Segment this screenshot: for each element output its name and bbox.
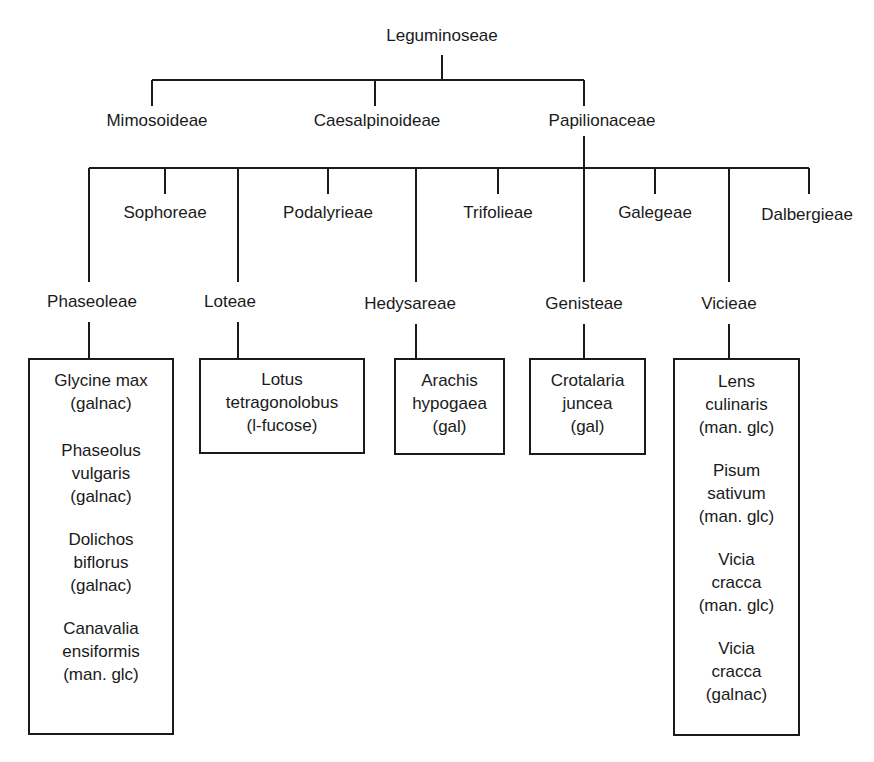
node-dalbergieae: Dalbergieae — [761, 205, 853, 225]
node-mimosoideae: Mimosoideae — [106, 111, 207, 131]
species-epithet: culinaris — [699, 393, 775, 416]
species-arachis-hypogaea: Arachis hypogaea (gal) — [412, 369, 487, 438]
species-box-loteae: Lotus tetragonolobus (l-fucose) — [199, 358, 365, 454]
species-genus: Lens — [699, 370, 775, 393]
node-galegeae: Galegeae — [618, 203, 692, 223]
species-genus: Crotalaria — [551, 369, 625, 392]
species-phaseolus-vulgaris: Phaseolus vulgaris (galnac) — [61, 439, 140, 508]
sugar-specificity: (galnac) — [61, 485, 140, 508]
species-genus: Canavalia — [62, 617, 139, 640]
node-podalyrieae: Podalyrieae — [283, 203, 373, 223]
species-name: Glycine max — [54, 369, 148, 392]
species-box-hedysareae: Arachis hypogaea (gal) — [394, 358, 505, 455]
sugar-specificity: (galnac) — [68, 574, 133, 597]
node-vicieae: Vicieae — [701, 294, 756, 314]
species-epithet: juncea — [551, 392, 625, 415]
species-genus: Arachis — [412, 369, 487, 392]
sugar-specificity: (galnac) — [54, 392, 148, 415]
node-trifolieae: Trifolieae — [463, 203, 532, 223]
species-epithet: vulgaris — [61, 462, 140, 485]
legume-lectin-taxonomy-tree: Leguminoseae Mimosoideae Caesalpinoideae… — [0, 0, 874, 762]
species-lens-culinaris: Lens culinaris (man. glc) — [699, 370, 775, 439]
node-hedysareae: Hedysareae — [364, 294, 456, 314]
sugar-specificity: (man. glc) — [699, 505, 775, 528]
node-leguminoseae: Leguminoseae — [386, 26, 498, 46]
node-caesalpinoideae: Caesalpinoideae — [314, 111, 441, 131]
species-genus: Vicia — [706, 637, 767, 660]
species-genus: Vicia — [699, 548, 775, 571]
species-box-phaseoleae: Glycine max (galnac) Phaseolus vulgaris … — [28, 358, 174, 735]
sugar-specificity: (man. glc) — [62, 663, 139, 686]
species-epithet: cracca — [706, 660, 767, 683]
species-genus: Lotus — [226, 368, 338, 391]
sugar-specificity: (l-fucose) — [226, 414, 338, 437]
node-phaseoleae: Phaseoleae — [47, 292, 137, 312]
species-epithet: tetragonolobus — [226, 391, 338, 414]
node-loteae: Loteae — [204, 292, 256, 312]
sugar-specificity: (man. glc) — [699, 416, 775, 439]
node-papilionaceae: Papilionaceae — [549, 111, 656, 131]
species-lotus-tetragonolobus: Lotus tetragonolobus (l-fucose) — [226, 368, 338, 437]
species-epithet: cracca — [699, 571, 775, 594]
species-genus: Phaseolus — [61, 439, 140, 462]
species-epithet: sativum — [699, 482, 775, 505]
sugar-specificity: (gal) — [551, 415, 625, 438]
sugar-specificity: (galnac) — [706, 683, 767, 706]
sugar-specificity: (man. glc) — [699, 594, 775, 617]
species-epithet: ensiformis — [62, 640, 139, 663]
species-crotalaria-juncea: Crotalaria juncea (gal) — [551, 369, 625, 438]
node-sophoreae: Sophoreae — [123, 203, 206, 223]
species-vicia-cracca-man-glc: Vicia cracca (man. glc) — [699, 548, 775, 617]
species-epithet: biflorus — [68, 551, 133, 574]
species-dolichos-biflorus: Dolichos biflorus (galnac) — [68, 528, 133, 597]
sugar-specificity: (gal) — [412, 415, 487, 438]
species-vicia-cracca-galnac: Vicia cracca (galnac) — [706, 637, 767, 706]
species-glycine-max: Glycine max (galnac) — [54, 369, 148, 415]
species-box-genisteae: Crotalaria juncea (gal) — [529, 358, 646, 455]
species-box-vicieae: Lens culinaris (man. glc) Pisum sativum … — [673, 358, 800, 736]
species-genus: Pisum — [699, 459, 775, 482]
species-canavalia-ensiformis: Canavalia ensiformis (man. glc) — [62, 617, 139, 686]
node-genisteae: Genisteae — [545, 294, 623, 314]
species-pisum-sativum: Pisum sativum (man. glc) — [699, 459, 775, 528]
species-genus: Dolichos — [68, 528, 133, 551]
species-epithet: hypogaea — [412, 392, 487, 415]
